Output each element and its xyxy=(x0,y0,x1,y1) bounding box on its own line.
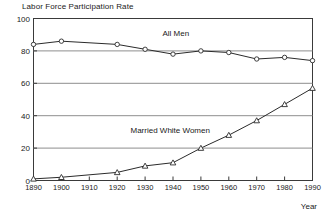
y-tick-label: 80 xyxy=(6,46,30,55)
data-point-marker xyxy=(115,42,119,46)
data-point-marker xyxy=(59,39,63,43)
data-point-marker xyxy=(282,102,288,107)
data-point-marker xyxy=(226,132,232,137)
x-tick-label: 1950 xyxy=(193,183,210,192)
data-point-marker xyxy=(310,58,314,62)
chart-container: Labor Force Participation Rate 020406080… xyxy=(0,0,323,218)
data-point-marker xyxy=(143,47,147,51)
data-point-marker xyxy=(199,49,203,53)
data-series-layer xyxy=(31,39,316,181)
x-tick-label: 1970 xyxy=(248,183,265,192)
x-tick-label: 1940 xyxy=(165,183,182,192)
x-tick-label: 1930 xyxy=(137,183,154,192)
x-tick-label: 1960 xyxy=(220,183,237,192)
data-point-marker xyxy=(282,55,286,59)
x-tick-label: 1920 xyxy=(109,183,126,192)
plot-border xyxy=(34,19,313,181)
chart-title: Labor Force Participation Rate xyxy=(22,2,134,11)
series-annotation: All Men xyxy=(162,29,189,38)
y-tick-label: 100 xyxy=(6,14,30,23)
data-point-marker xyxy=(171,52,175,56)
data-point-marker xyxy=(310,85,316,90)
plot-frame xyxy=(34,19,313,181)
data-point-marker xyxy=(254,118,260,123)
x-tick-label: 1910 xyxy=(81,183,98,192)
x-axis-ticks xyxy=(34,177,313,181)
x-tick-label: 1990 xyxy=(304,183,321,192)
data-point-marker xyxy=(255,57,259,61)
y-tick-label: 40 xyxy=(6,111,30,120)
data-point-marker xyxy=(170,160,176,165)
x-axis-label: Year xyxy=(301,202,317,211)
data-point-marker xyxy=(31,42,35,46)
data-point-marker xyxy=(227,50,231,54)
x-tick-label: 1890 xyxy=(25,183,42,192)
series-annotation: Married White Women xyxy=(130,126,209,135)
x-tick-label: 1900 xyxy=(53,183,70,192)
y-tick-label: 60 xyxy=(6,79,30,88)
y-tick-label: 20 xyxy=(6,144,30,153)
x-tick-label: 1980 xyxy=(276,183,293,192)
